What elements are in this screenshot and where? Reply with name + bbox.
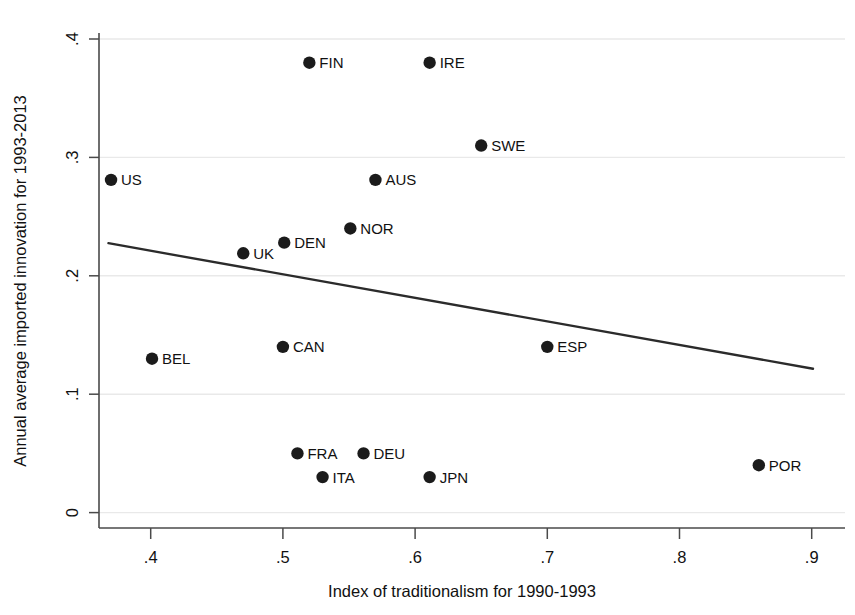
x-tick-label: .7 — [540, 548, 554, 566]
data-point-marker — [291, 447, 303, 459]
x-tick-label: .5 — [276, 548, 290, 566]
x-tick-label: .9 — [805, 548, 819, 566]
data-point-label: POR — [769, 457, 802, 474]
data-point-label: JPN — [440, 469, 468, 486]
data-point-label: IRE — [440, 54, 465, 71]
data-point-label: NOR — [360, 220, 394, 237]
y-tick-label: .4 — [63, 32, 81, 46]
data-point-label: ESP — [557, 338, 587, 355]
data-point-marker — [344, 222, 356, 234]
chart-background — [0, 0, 855, 615]
data-point-marker — [105, 174, 117, 186]
scatter-plot-figure: 0.1.2.3.4 .4.5.6.7.8.9 USFINIRESWEAUSNOR… — [0, 0, 855, 615]
data-point-marker — [278, 236, 290, 248]
data-point-marker — [303, 56, 315, 68]
y-tick-label: .2 — [63, 269, 81, 283]
data-point-marker — [475, 139, 487, 151]
y-tick-label: .3 — [63, 151, 81, 165]
data-point-marker — [541, 341, 553, 353]
data-point-marker — [423, 56, 435, 68]
data-point-label: BEL — [162, 350, 190, 367]
y-tick-label: .1 — [63, 387, 81, 401]
x-tick-label: .4 — [144, 548, 158, 566]
data-point-marker — [369, 174, 381, 186]
data-point-label: FRA — [307, 445, 337, 462]
y-tick-label: 0 — [63, 508, 81, 517]
data-point-marker — [423, 471, 435, 483]
data-point-label: DEU — [374, 445, 406, 462]
x-tick-label: .6 — [408, 548, 422, 566]
data-point-label: FIN — [319, 54, 343, 71]
data-point-marker — [237, 247, 249, 259]
x-tick-label: .8 — [673, 548, 687, 566]
data-point-marker — [357, 447, 369, 459]
data-point-label: AUS — [385, 171, 416, 188]
data-point-marker — [316, 471, 328, 483]
data-point-label: DEN — [294, 234, 326, 251]
data-point-label: CAN — [293, 338, 325, 355]
y-axis-title: Annual average imported innovation for 1… — [11, 95, 29, 467]
data-point-marker — [753, 459, 765, 471]
data-point-label: UK — [253, 245, 274, 262]
data-point-marker — [146, 352, 158, 364]
data-point-label: SWE — [491, 137, 525, 154]
data-point-label: ITA — [333, 469, 355, 486]
data-point-label: US — [121, 171, 142, 188]
chart-canvas: 0.1.2.3.4 .4.5.6.7.8.9 USFINIRESWEAUSNOR… — [0, 0, 855, 615]
x-axis-title: Index of traditionalism for 1990-1993 — [328, 582, 596, 600]
data-point-marker — [277, 341, 289, 353]
